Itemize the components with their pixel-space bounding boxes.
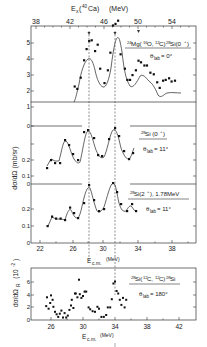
svg-text:46: 46 — [100, 18, 108, 25]
x-axis-tick-labels: 26 30 34 38 42 — [47, 323, 183, 330]
svg-text:lab: lab — [150, 209, 157, 214]
svg-text:0: 0 — [27, 181, 31, 187]
svg-text:42: 42 — [175, 323, 183, 330]
svg-text:), 1.78MeV: ), 1.78MeV — [150, 191, 179, 197]
svg-text:lab: lab — [154, 56, 161, 61]
svg-text:dσ/dΩ: dσ/dΩ — [12, 289, 19, 307]
svg-text:lab: lab — [143, 294, 150, 299]
svg-text:): ) — [187, 40, 189, 47]
svg-text:42: 42 — [66, 18, 74, 25]
svg-text:R: R — [16, 283, 21, 287]
svg-text:2: 2 — [26, 87, 30, 94]
fit-curve — [47, 130, 134, 166]
svg-text:(10: (10 — [12, 269, 20, 279]
svg-text:38: 38 — [143, 323, 151, 330]
arrow-markers — [88, 30, 141, 35]
svg-text:50: 50 — [134, 18, 142, 25]
svg-text:lab: lab — [147, 149, 154, 154]
svg-text:Mg(: Mg( — [131, 40, 143, 47]
svg-text:30: 30 — [79, 323, 87, 330]
svg-text:C): C) — [159, 276, 165, 282]
svg-text:Si(0: Si(0 — [170, 40, 182, 47]
svg-text:6: 6 — [27, 279, 31, 285]
svg-text:4: 4 — [26, 55, 30, 62]
svg-text:0.1: 0.1 — [22, 223, 31, 229]
arrow-down-icon — [137, 30, 140, 33]
svg-text:0.1: 0.1 — [22, 173, 31, 179]
y-axis-tick-labels: 6420 — [27, 279, 31, 323]
svg-text:): ) — [12, 259, 20, 261]
svg-text:40: 40 — [82, 4, 88, 9]
panel-si-0plus: 00.20.1 28 Si (0 + — [22, 102, 196, 184]
x-axis-tick-labels: 22 26 30 34 38 — [36, 245, 176, 252]
svg-text:0.2: 0.2 — [22, 206, 31, 212]
svg-text:C,: C, — [147, 276, 153, 282]
svg-text:26: 26 — [69, 245, 77, 252]
svg-text:c.m.: c.m. — [92, 260, 101, 266]
svg-text:(MeV): (MeV) — [109, 5, 128, 13]
svg-text:0: 0 — [27, 317, 31, 323]
svg-text:38: 38 — [32, 18, 40, 25]
svg-text:54: 54 — [168, 18, 176, 25]
svg-text:Ca): Ca) — [88, 5, 99, 13]
svg-text:= 0°: = 0° — [161, 52, 173, 59]
svg-text:22: 22 — [36, 245, 44, 252]
svg-text:38: 38 — [168, 245, 176, 252]
panel-mg-0deg: 54321 — [26, 20, 196, 110]
y-axis-tick-labels: 54321 — [26, 39, 30, 110]
svg-text:= 11°: = 11° — [154, 145, 169, 152]
y-axis-tick-labels: 00.20.1 — [22, 123, 31, 179]
bottom-x-axis-label: E c.m. (MeV) — [82, 332, 114, 342]
svg-text:-2: -2 — [11, 263, 16, 267]
svg-text:Si(2: Si(2 — [134, 191, 145, 197]
svg-text:34: 34 — [134, 245, 142, 252]
svg-text:= 11°: = 11° — [157, 206, 171, 212]
svg-text:(MeV): (MeV) — [106, 256, 120, 262]
svg-text:0: 0 — [27, 240, 31, 246]
svg-text:2: 2 — [27, 304, 31, 310]
svg-text:Si(: Si( — [135, 276, 142, 282]
panel-label: 28 Si( 12 C, 12 C) 28 Si θ lab = 180° — [129, 275, 180, 299]
svg-text:30: 30 — [99, 245, 107, 252]
top-axis-title: E x ( 40 Ca) (MeV) — [71, 4, 128, 14]
arrow-down-icon — [114, 32, 117, 35]
arrow-down-icon — [88, 32, 91, 35]
svg-text:1: 1 — [26, 103, 30, 110]
svg-text:Si: Si — [170, 276, 175, 282]
panel-label: 24 Mg( 16 O, 12 C) 28 Si(0 + ) θ lab = 0… — [125, 39, 191, 61]
panel-label: 28 Si (0 + ) θ lab = 11° — [139, 129, 169, 154]
svg-text:O,: O, — [147, 40, 154, 47]
fit-curve — [74, 38, 181, 102]
svg-text:C): C) — [159, 40, 166, 47]
svg-text:3: 3 — [26, 71, 30, 78]
svg-text:= 180°: = 180° — [150, 291, 168, 297]
svg-text:Si (0: Si (0 — [145, 130, 158, 137]
svg-text:c.m.: c.m. — [87, 336, 96, 342]
svg-text:26: 26 — [47, 323, 55, 330]
svg-text:(MeV): (MeV) — [100, 332, 114, 338]
svg-text:4: 4 — [27, 292, 31, 298]
data-points — [47, 182, 138, 227]
figure: E x ( 40 Ca) (MeV) 38 42 46 50 54 54321 — [0, 0, 207, 347]
bottom-y-axis-label: dσ/dΩ R (10 -2 ) — [11, 259, 21, 307]
middle-x-axis-label: E c.m. (MeV) — [87, 256, 120, 266]
top-axis-tick-labels: 38 42 46 50 54 — [32, 18, 176, 25]
y-axis-tick-labels: 00.20.10 — [22, 181, 31, 246]
panel-si-2plus: 00.20.10 22 26 30 34 38 — [22, 181, 196, 266]
svg-text:5: 5 — [26, 39, 30, 46]
svg-text:0.2: 0.2 — [22, 157, 31, 163]
panel-si-c-180deg: 6420 26 30 34 38 42 — [11, 259, 196, 347]
middle-y-axis-label: dσ/dΩ (mb/sr) — [11, 146, 19, 189]
svg-text:): ) — [163, 130, 165, 137]
panel-frame — [31, 26, 196, 102]
svg-text:0: 0 — [27, 123, 31, 129]
svg-text:34: 34 — [111, 323, 119, 330]
